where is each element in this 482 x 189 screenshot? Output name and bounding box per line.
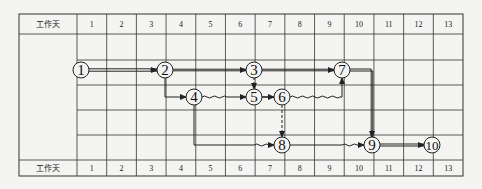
header-day-8: 8: [298, 20, 302, 29]
time-scaled-network-diagram: 工作天 12345678910111213 工作天 12345678910111…: [0, 0, 482, 189]
node-1: 1: [73, 62, 89, 78]
header-row-label: 工作天: [36, 19, 60, 29]
edge-8-9: [290, 144, 364, 146]
footer-day-12: 12: [414, 164, 422, 173]
node-label: 4: [190, 89, 198, 105]
node-6: 6: [274, 89, 290, 105]
footer-day-3: 3: [149, 164, 153, 173]
node-10: 10: [424, 137, 440, 153]
edge-2-3: [173, 69, 246, 71]
node-label: 2: [161, 62, 169, 78]
node-label: 6: [278, 89, 286, 105]
node-4: 4: [186, 89, 202, 105]
node-9: 9: [364, 137, 380, 153]
timeline-grid: [19, 14, 463, 176]
edge-9-10: [380, 144, 424, 146]
header-day-11: 11: [385, 20, 393, 29]
node-label: 7: [338, 62, 346, 78]
edge-1-2: [89, 69, 157, 71]
header-row: 工作天 12345678910111213: [36, 19, 452, 29]
node-8: 8: [274, 137, 290, 153]
footer-day-2: 2: [120, 164, 124, 173]
nodes: 12345678910: [73, 62, 440, 153]
edge-4-5: [202, 96, 246, 98]
footer-day-10: 10: [355, 164, 363, 173]
header-day-4: 4: [179, 20, 183, 29]
footer-day-9: 9: [327, 164, 331, 173]
header-day-13: 13: [444, 20, 452, 29]
node-7: 7: [334, 62, 350, 78]
edge-2-4: [165, 78, 186, 97]
footer-day-11: 11: [385, 164, 393, 173]
node-label: 5: [250, 89, 258, 105]
header-day-1: 1: [90, 20, 94, 29]
footer-day-8: 8: [298, 164, 302, 173]
header-day-5: 5: [209, 20, 213, 29]
node-3: 3: [246, 62, 262, 78]
footer-day-6: 6: [238, 164, 242, 173]
header-day-3: 3: [149, 20, 153, 29]
edge-6-7: [290, 78, 342, 98]
edge-3-7: [262, 69, 334, 71]
header-day-6: 6: [238, 20, 242, 29]
edge-7-9: [350, 69, 373, 137]
edge-4-8: [194, 105, 274, 146]
footer-day-13: 13: [444, 164, 452, 173]
node-5: 5: [246, 89, 262, 105]
header-day-10: 10: [355, 20, 363, 29]
node-label: 3: [250, 62, 258, 78]
header-day-2: 2: [120, 20, 124, 29]
header-day-12: 12: [414, 20, 422, 29]
header-day-9: 9: [327, 20, 331, 29]
footer-day-5: 5: [209, 164, 213, 173]
node-label: 1: [77, 62, 85, 78]
footer-day-1: 1: [90, 164, 94, 173]
footer-day-7: 7: [268, 164, 272, 173]
header-day-7: 7: [268, 20, 272, 29]
node-label: 9: [368, 137, 376, 153]
node-label: 10: [426, 138, 439, 153]
footer-row-label: 工作天: [36, 163, 60, 173]
node-2: 2: [157, 62, 173, 78]
node-label: 8: [278, 137, 286, 153]
footer-row: 工作天 12345678910111213: [36, 163, 452, 173]
footer-day-4: 4: [179, 164, 183, 173]
